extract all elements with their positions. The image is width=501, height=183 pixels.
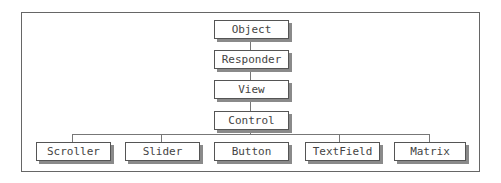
- node-control: Control: [214, 111, 289, 130]
- connector-view-control: [250, 98, 251, 111]
- node-matrix: Matrix: [394, 142, 466, 161]
- connector-drop-slider: [161, 134, 162, 142]
- connector-object-responder: [250, 38, 251, 50]
- connector-drop-matrix: [429, 134, 430, 142]
- node-responder: Responder: [214, 50, 289, 69]
- connector-bus: [72, 134, 430, 135]
- connector-drop-scroller: [72, 134, 73, 142]
- connector-responder-view: [250, 68, 251, 80]
- node-textfield: TextField: [305, 142, 380, 161]
- node-slider: Slider: [125, 142, 200, 161]
- node-scroller: Scroller: [36, 142, 111, 161]
- connector-drop-textfield: [339, 134, 340, 142]
- node-view: View: [214, 80, 289, 99]
- node-button: Button: [214, 142, 289, 161]
- node-object: Object: [214, 20, 289, 39]
